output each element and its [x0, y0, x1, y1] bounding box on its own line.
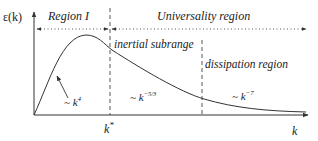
- region-i-label: Region I: [47, 9, 90, 23]
- x-axis-label: k: [292, 124, 298, 138]
- scaling-k-7: ~ k−7: [232, 89, 254, 102]
- scaling-k-5-3: ~ k−5/3: [130, 90, 157, 103]
- dissipation-region-label: dissipation region: [205, 58, 288, 71]
- energy-spectrum-diagram: ε(k) Region I Universality region inerti…: [0, 0, 318, 141]
- inertial-subrange-label: inertial subrange: [114, 38, 194, 51]
- k4-pointer-arrow: [57, 76, 68, 98]
- y-axis-label: ε(k): [3, 10, 22, 24]
- scaling-k4: ~ k4: [64, 95, 82, 108]
- k-star-label: k*: [104, 120, 114, 136]
- universality-region-label: Universality region: [157, 9, 250, 23]
